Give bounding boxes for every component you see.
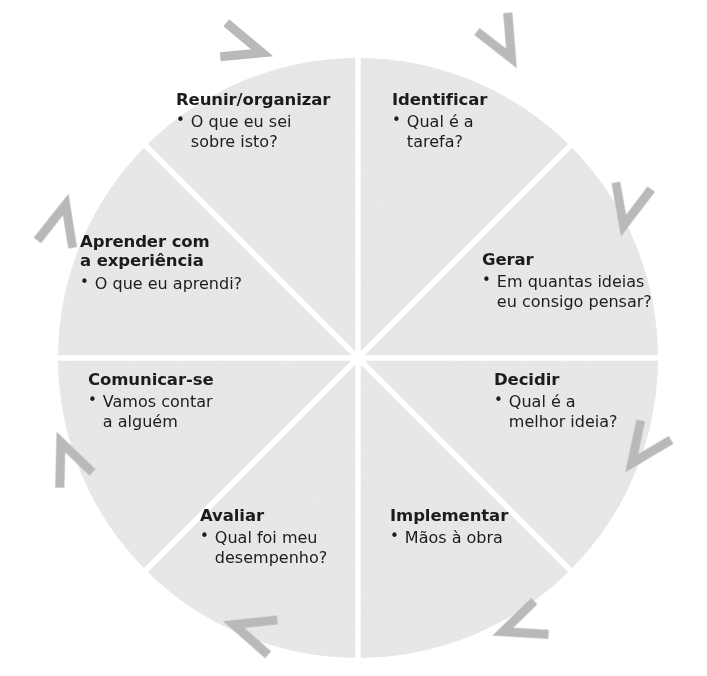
- bullet-icon: •: [392, 112, 401, 129]
- bullet-icon: •: [200, 528, 209, 545]
- segment-gerar: Gerar • Em quantas ideias eu consigo pen…: [482, 250, 682, 312]
- diagram-canvas: Reunir/organizar • O que eu sei sobre is…: [0, 0, 707, 676]
- segment-title: Reunir/organizar: [176, 90, 366, 109]
- segment-title: Comunicar-se: [88, 370, 288, 389]
- segment-title: Gerar: [482, 250, 682, 269]
- segment-bullet-text: Qual foi meu desempenho?: [215, 528, 327, 567]
- arrow-top-left-icon: [215, 23, 268, 70]
- bullet-icon: •: [482, 272, 491, 289]
- segment-bullet: • Qual foi meu desempenho?: [200, 528, 390, 567]
- bullet-icon: •: [80, 274, 89, 291]
- segment-bullet: • O que eu aprendi?: [80, 274, 300, 294]
- segment-reunir-organizar: Reunir/organizar • O que eu sei sobre is…: [176, 90, 366, 152]
- segment-implementar: Implementar • Mãos à obra: [390, 506, 590, 548]
- bullet-icon: •: [88, 392, 97, 409]
- segment-bullet-text: Qual é a melhor ideia?: [509, 392, 618, 431]
- arrow-left-upper-icon: [37, 200, 83, 250]
- segment-bullet: • Qual é a tarefa?: [392, 112, 562, 151]
- bullet-icon: •: [390, 528, 399, 545]
- segment-title: Implementar: [390, 506, 590, 525]
- segment-decidir: Decidir • Qual é a melhor ideia?: [494, 370, 674, 432]
- segment-bullet-text: Em quantas ideias eu consigo pensar?: [497, 272, 652, 311]
- segment-bullet-text: Mãos à obra: [405, 528, 503, 548]
- segment-comunicar-se: Comunicar-se • Vamos contar a alguém: [88, 370, 288, 432]
- segment-avaliar: Avaliar • Qual foi meu desempenho?: [200, 506, 390, 568]
- segment-title: Avaliar: [200, 506, 390, 525]
- segment-bullet: • O que eu sei sobre isto?: [176, 112, 366, 151]
- bullet-icon: •: [494, 392, 503, 409]
- segment-aprender-com-a-experiencia: Aprender com a experiência • O que eu ap…: [80, 232, 300, 293]
- segment-identificar: Identificar • Qual é a tarefa?: [392, 90, 562, 152]
- arrow-top-right-icon: [476, 13, 528, 67]
- segment-bullet: • Em quantas ideias eu consigo pensar?: [482, 272, 682, 311]
- segment-title: Identificar: [392, 90, 562, 109]
- segment-bullet-text: Vamos contar a alguém: [103, 392, 213, 431]
- segment-bullet: • Vamos contar a alguém: [88, 392, 288, 431]
- segment-title: Aprender com a experiência: [80, 232, 300, 271]
- segment-title: Decidir: [494, 370, 674, 389]
- segment-bullet: • Mãos à obra: [390, 528, 590, 548]
- segment-bullet-text: O que eu aprendi?: [95, 274, 242, 294]
- segment-bullet-text: Qual é a tarefa?: [407, 112, 474, 151]
- segment-bullet-text: O que eu sei sobre isto?: [191, 112, 292, 151]
- segment-bullet: • Qual é a melhor ideia?: [494, 392, 674, 431]
- bullet-icon: •: [176, 112, 185, 129]
